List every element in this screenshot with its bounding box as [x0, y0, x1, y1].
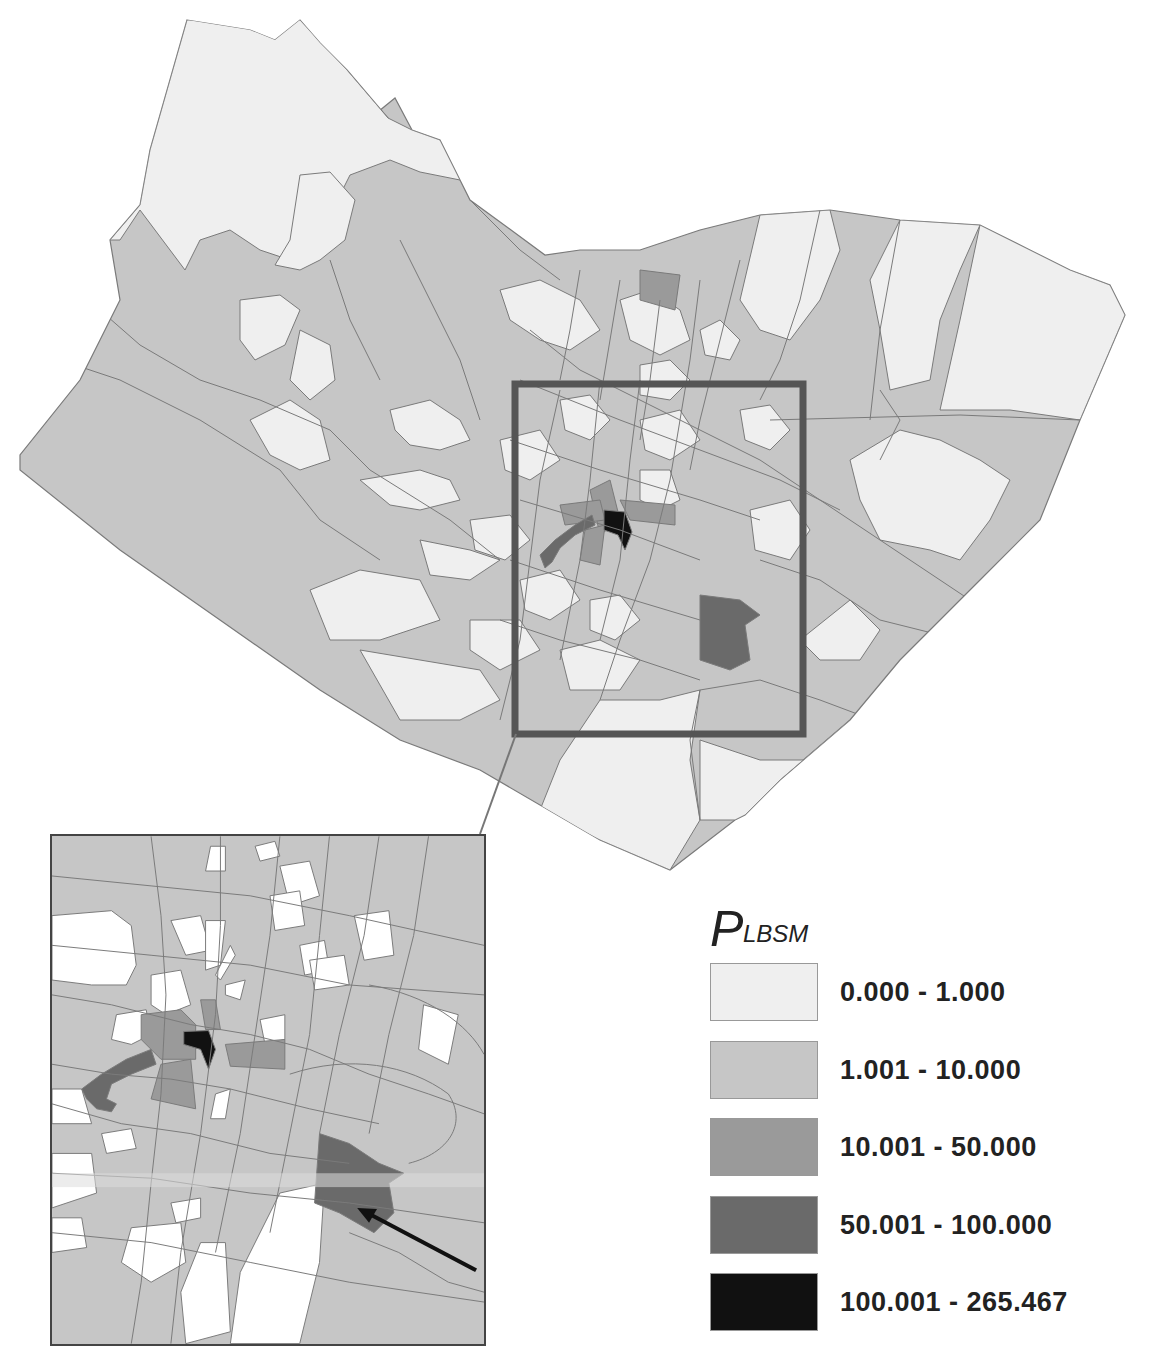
- legend-label: 10.001 - 50.000: [840, 1132, 1037, 1163]
- inset-map: [50, 834, 486, 1346]
- main-map: [0, 0, 1150, 900]
- legend-swatch: [710, 1273, 818, 1331]
- legend-item-class-4: 100.001 - 265.467: [710, 1273, 1130, 1331]
- legend-item-class-0: 0.000 - 1.000: [710, 963, 1130, 1021]
- legend-swatch: [710, 1118, 818, 1176]
- legend-title-main: P: [710, 900, 743, 958]
- legend-title-subscript: LBSM: [743, 920, 808, 948]
- legend-title: P LBSM: [710, 900, 1130, 960]
- legend-swatch: [710, 1041, 818, 1099]
- legend-item-class-2: 10.001 - 50.000: [710, 1118, 1130, 1176]
- legend-swatch: [710, 1196, 818, 1254]
- legend-label: 1.001 - 10.000: [840, 1055, 1021, 1086]
- legend-item-class-1: 1.001 - 10.000: [710, 1041, 1130, 1099]
- legend-swatch: [710, 963, 818, 1021]
- legend-item-class-3: 50.001 - 100.000: [710, 1196, 1130, 1254]
- legend-label: 0.000 - 1.000: [840, 977, 1006, 1008]
- legend-label: 50.001 - 100.000: [840, 1210, 1052, 1241]
- legend-label: 100.001 - 265.467: [840, 1287, 1068, 1318]
- legend: P LBSM 0.000 - 1.000 1.001 - 10.000 10.0…: [710, 900, 1130, 960]
